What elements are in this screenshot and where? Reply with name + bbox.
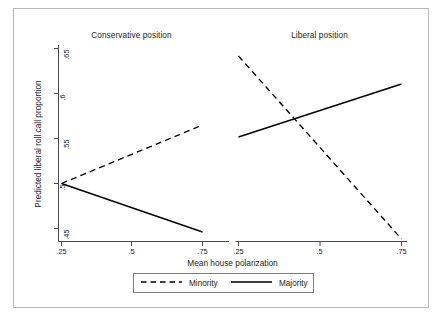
x-tick-label-left-25: .25 [46,247,77,256]
legend-label-majority: Majority [279,279,308,288]
line-conservative-minority [62,125,203,184]
x-tick-label-right-50: .5 [304,247,335,256]
line-conservative-majority [62,184,203,233]
legend-entry-minority: Minority [141,274,218,292]
y-tick-label-55: .55 [62,140,71,150]
y-tick-label-60: .6 [58,95,67,101]
figure-canvas: Conservative position Liberal position [0,0,442,325]
x-tick-label-left-75: .75 [187,247,218,256]
y-axis-label: Predicted liberal roll call proportion [33,44,43,244]
line-liberal-majority [239,84,402,137]
legend-swatch-solid-icon [231,282,272,284]
chart-legend: Minority Majority [133,273,314,293]
line-liberal-minority [239,56,402,239]
x-tick-label-right-25: .25 [223,247,254,256]
x-tick-label-right-75: .75 [386,247,417,256]
x-axis-label: Mean house polarization [58,258,407,268]
legend-entry-majority: Majority [231,274,308,292]
legend-label-minority: Minority [189,279,218,288]
y-tick-label-45: .45 [62,230,71,240]
legend-swatch-dashed-icon [141,282,182,284]
y-tick-label-65: .65 [62,50,71,60]
x-tick-label-left-50: .5 [116,247,147,256]
y-tick-label-50: .5 [58,185,67,191]
